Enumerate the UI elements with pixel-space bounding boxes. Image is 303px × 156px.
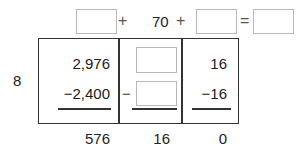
- col1-dividend: 2,976: [50, 55, 110, 73]
- quotient-part1-input[interactable]: [76, 9, 117, 34]
- col1-remainder: 576: [50, 130, 110, 148]
- col2-remainder: 16: [130, 130, 170, 148]
- col2-underline: [132, 108, 177, 110]
- plus-sign: +: [176, 12, 185, 30]
- plus-sign: +: [118, 12, 127, 30]
- col2-dividend-input[interactable]: [136, 47, 177, 73]
- col2-subtract-input[interactable]: [136, 81, 177, 106]
- col3-remainder: 0: [190, 130, 227, 148]
- column-divider: [118, 38, 120, 124]
- col2-minus-sign: −: [122, 85, 131, 103]
- quotient-result-input[interactable]: [253, 9, 294, 34]
- equals-sign: =: [240, 12, 249, 30]
- divisor: 8: [13, 72, 21, 90]
- quotient-part2: 70: [152, 13, 169, 31]
- col3-subtract: −16: [190, 85, 227, 103]
- col1-underline: [58, 108, 111, 110]
- col3-dividend: 16: [190, 55, 227, 73]
- col3-underline: [192, 108, 231, 110]
- col1-subtract: −2,400: [50, 85, 110, 103]
- column-divider: [181, 38, 183, 124]
- quotient-part3-input[interactable]: [196, 9, 237, 34]
